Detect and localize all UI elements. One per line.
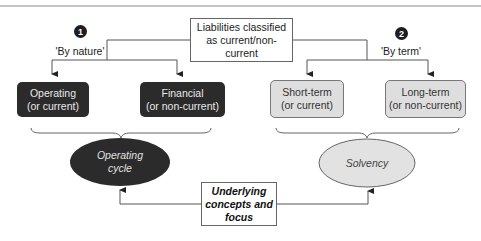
operating-cycle-line1: Operating bbox=[97, 149, 143, 162]
branch-label-by-nature: 'By nature' bbox=[40, 45, 120, 58]
solvency-line1: Solvency bbox=[346, 157, 389, 170]
underlying-line2: concepts and bbox=[205, 198, 273, 211]
financial-line1: Financial bbox=[161, 87, 203, 100]
long-term-box: Long-term (or non-current) bbox=[385, 80, 466, 118]
long-term-line1: Long-term bbox=[402, 86, 450, 99]
number-badge-1: 1 bbox=[74, 25, 87, 38]
root-label: Liabilities classified as current/non-cu… bbox=[194, 21, 290, 60]
financial-line2: (or non-current) bbox=[146, 100, 219, 113]
underlying-concepts-box: Underlying concepts and focus bbox=[201, 182, 277, 226]
branch-label-by-term: 'By term' bbox=[365, 45, 437, 58]
root-box: Liabilities classified as current/non-cu… bbox=[190, 18, 293, 62]
short-term-line2: (or current) bbox=[281, 99, 333, 112]
operating-line1: Operating bbox=[30, 87, 76, 100]
operating-box: Operating (or current) bbox=[17, 82, 89, 117]
operating-cycle-label: Operating cycle bbox=[70, 138, 170, 186]
operating-cycle-line2: cycle bbox=[108, 162, 132, 175]
number-badge-2: 2 bbox=[395, 27, 408, 40]
operating-line2: (or current) bbox=[27, 100, 79, 113]
financial-box: Financial (or non-current) bbox=[140, 82, 225, 117]
long-term-line2: (or non-current) bbox=[389, 99, 462, 112]
underlying-line3: focus bbox=[225, 211, 253, 224]
short-term-box: Short-term (or current) bbox=[270, 80, 344, 118]
underlying-line1: Underlying bbox=[212, 185, 267, 198]
short-term-line1: Short-term bbox=[282, 86, 332, 99]
solvency-label: Solvency bbox=[319, 139, 415, 187]
